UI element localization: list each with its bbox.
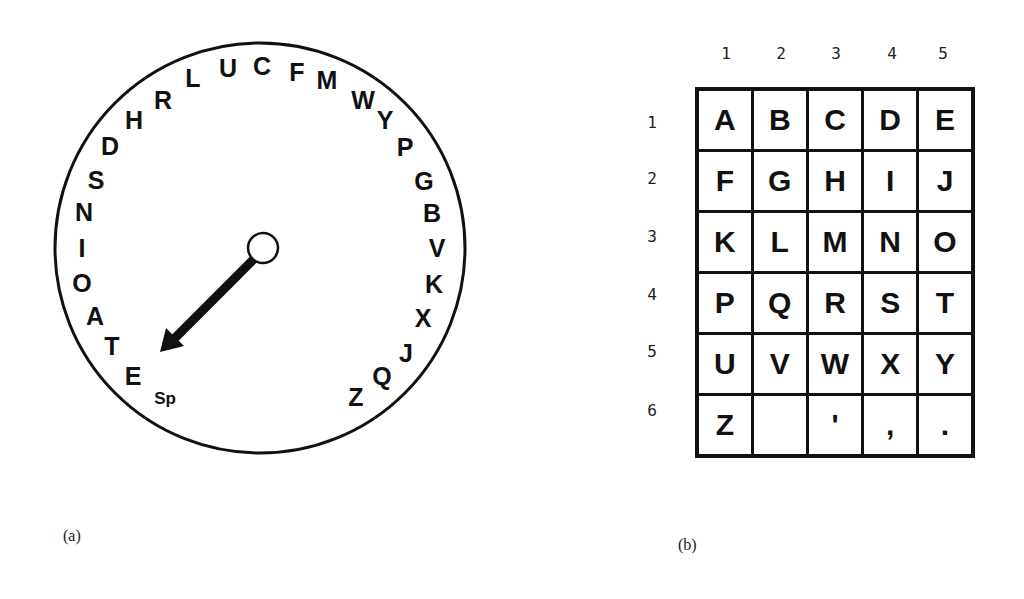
grid-row: UVWXY <box>697 334 973 395</box>
grid-cell: M <box>807 212 863 273</box>
grid-cell: B <box>752 89 807 151</box>
letter-grid: ABCDEFGHIJKLMNOPQRSTUVWXYZ',. <box>695 87 975 458</box>
grid-cell: R <box>807 273 863 334</box>
grid-cell: I <box>863 151 918 212</box>
grid-cell: D <box>863 89 918 151</box>
grid-cell: S <box>863 273 918 334</box>
grid-cell: G <box>752 151 807 212</box>
grid-cell: J <box>918 151 973 212</box>
grid-cell: L <box>752 212 807 273</box>
grid-cell: F <box>697 151 752 212</box>
panel-b-letter-grid: 12345 123456 ABCDEFGHIJKLMNOPQRSTUVWXYZ'… <box>0 0 1024 599</box>
column-header: 3 <box>831 44 841 63</box>
column-header: 4 <box>887 44 897 63</box>
grid-cell: Y <box>918 334 973 395</box>
row-header: 2 <box>647 169 657 188</box>
grid-row: PQRST <box>697 273 973 334</box>
grid-row: FGHIJ <box>697 151 973 212</box>
row-header: 5 <box>647 342 657 361</box>
row-header: 6 <box>647 401 657 420</box>
column-header: 1 <box>721 44 731 63</box>
grid-row: Z',. <box>697 395 973 457</box>
grid-cell: O <box>918 212 973 273</box>
grid-cell: E <box>918 89 973 151</box>
grid-cell: Q <box>752 273 807 334</box>
grid-cell: U <box>697 334 752 395</box>
grid-cell: N <box>863 212 918 273</box>
row-header: 3 <box>647 227 657 246</box>
grid-cell: X <box>863 334 918 395</box>
grid-cell: W <box>807 334 863 395</box>
grid-row: ABCDE <box>697 89 973 151</box>
row-header: 4 <box>647 285 657 304</box>
grid-cell <box>752 395 807 457</box>
column-header: 2 <box>776 44 786 63</box>
grid-cell: , <box>863 395 918 457</box>
grid-cell: A <box>697 89 752 151</box>
grid-cell: H <box>807 151 863 212</box>
grid-cell: C <box>807 89 863 151</box>
caption-b: (b) <box>678 536 697 554</box>
grid-cell: Z <box>697 395 752 457</box>
grid-cell: V <box>752 334 807 395</box>
grid-cell: P <box>697 273 752 334</box>
column-header: 5 <box>938 44 948 63</box>
grid-cell: K <box>697 212 752 273</box>
row-header: 1 <box>647 113 657 132</box>
grid-row: KLMNO <box>697 212 973 273</box>
grid-cell: T <box>918 273 973 334</box>
grid-cell: ' <box>807 395 863 457</box>
grid-cell: . <box>918 395 973 457</box>
